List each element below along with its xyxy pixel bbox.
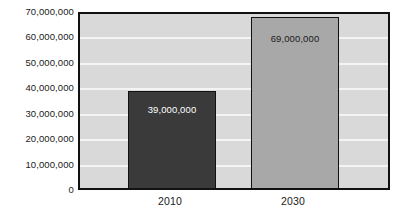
x-axis-tick-label-2030: 2030 [249,194,337,208]
bar-value-label-2010: 39,000,000 [129,104,215,115]
y-axis-tick-label: 20,000,000 [0,134,74,144]
bar-2010[interactable]: 39,000,000 [128,91,216,188]
y-axis-tick-label: 10,000,000 [0,160,74,170]
y-axis-tick-label: 40,000,000 [0,83,74,93]
y-axis-tick-label: 0 [0,185,74,195]
x-axis: 2010 2030 [78,194,390,214]
bar-chart: 70,000,000 60,000,000 50,000,000 40,000,… [0,0,409,220]
bars-layer: 39,000,000 69,000,000 [80,14,388,188]
y-axis-tick-label: 30,000,000 [0,109,74,119]
x-axis-tick-label-2010: 2010 [126,194,214,208]
y-axis-tick-label: 50,000,000 [0,58,74,68]
y-axis-tick-label: 70,000,000 [0,7,74,17]
y-axis-tick-label: 60,000,000 [0,32,74,42]
y-axis: 70,000,000 60,000,000 50,000,000 40,000,… [0,0,74,220]
bar-2030[interactable]: 69,000,000 [251,17,339,189]
plot-area: 39,000,000 69,000,000 [78,12,390,190]
bar-value-label-2030: 69,000,000 [252,33,338,44]
